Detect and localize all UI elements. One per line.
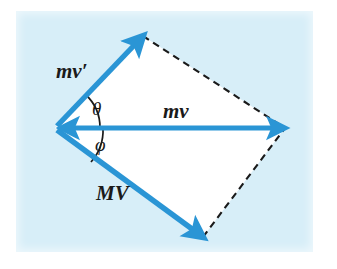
momentum-vector-figure: mv′ mv MV θ φ (0, 0, 337, 269)
vector-label-mv-prime: mv′ (56, 61, 88, 82)
angle-label-theta: θ (92, 99, 101, 118)
parallelogram-interior (55, 36, 285, 237)
vector-label-MV: MV (96, 183, 129, 204)
vector-label-mv: mv (163, 101, 189, 122)
vector-diagram-canvas (0, 0, 337, 269)
angle-label-phi: φ (95, 135, 106, 154)
